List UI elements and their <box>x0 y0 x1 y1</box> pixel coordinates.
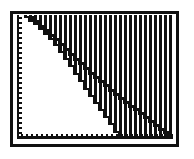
plot-svg <box>0 0 194 159</box>
scanned-graph-screenshot <box>0 0 194 159</box>
